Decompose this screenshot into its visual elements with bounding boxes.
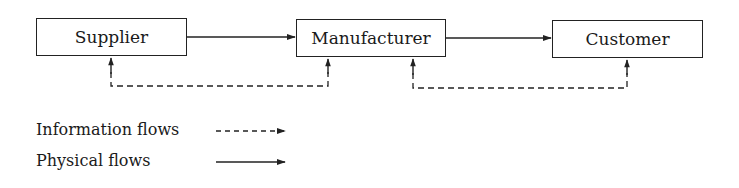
legend-physical-label: Physical flows — [36, 151, 150, 170]
information-flow-supplier-manufacturer — [111, 58, 328, 86]
node-manufacturer: Manufacturer — [296, 19, 446, 57]
information-flow-manufacturer-customer — [413, 59, 627, 88]
legend-information-label: Information flows — [36, 120, 179, 139]
node-supplier-label: Supplier — [75, 27, 148, 47]
node-manufacturer-label: Manufacturer — [311, 28, 430, 48]
node-customer-label: Customer — [585, 29, 669, 49]
node-supplier: Supplier — [36, 18, 187, 56]
node-customer: Customer — [552, 20, 703, 58]
